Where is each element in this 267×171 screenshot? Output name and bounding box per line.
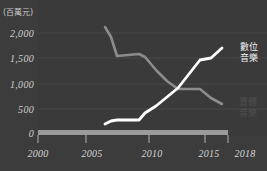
- x-tick-2005: 2005: [81, 148, 102, 159]
- axis-baseline: [38, 130, 228, 135]
- chart-screenshot: (百萬元) 2,000 1,500 1,000 500 0 2000 2005 …: [0, 0, 267, 171]
- series-label-physical-line2: 音樂: [239, 108, 257, 119]
- series-label-digital-line2: 音樂: [240, 53, 258, 64]
- series-label-digital: 數位 音樂: [240, 42, 258, 64]
- series-label-physical-line1: 實體: [239, 97, 257, 108]
- x-tick-2015: 2015: [198, 148, 219, 159]
- x-tick-2010: 2010: [141, 148, 162, 159]
- x-tick-2018: 2018: [234, 148, 255, 159]
- x-axis: [0, 0, 267, 171]
- series-label-physical: 實體 音樂: [239, 97, 257, 119]
- x-tick-2000: 2000: [27, 148, 48, 159]
- series-label-digital-line1: 數位: [240, 42, 258, 53]
